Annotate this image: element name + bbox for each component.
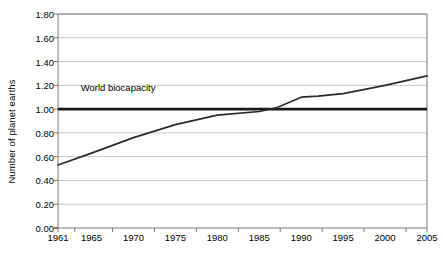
x-tick-label: 1975 bbox=[165, 232, 186, 243]
x-tick-label: 1961 bbox=[47, 232, 68, 243]
x-tick-label: 1995 bbox=[333, 232, 354, 243]
x-tick-label: 1970 bbox=[123, 232, 144, 243]
axis-lines bbox=[58, 14, 427, 228]
world-biocapacity-annotation: World biocapacity bbox=[81, 82, 156, 93]
chart-container: Number of planet earths 0.000.200.400.60… bbox=[0, 0, 444, 263]
x-tick-label: 2005 bbox=[416, 232, 437, 243]
x-axis-ticks bbox=[54, 14, 427, 232]
x-tick-label: 1965 bbox=[81, 232, 102, 243]
x-tick-label: 2000 bbox=[374, 232, 395, 243]
plot-area bbox=[0, 0, 444, 263]
x-tick-label: 1980 bbox=[207, 232, 228, 243]
x-tick-label: 1985 bbox=[249, 232, 270, 243]
x-tick-label: 1990 bbox=[291, 232, 312, 243]
